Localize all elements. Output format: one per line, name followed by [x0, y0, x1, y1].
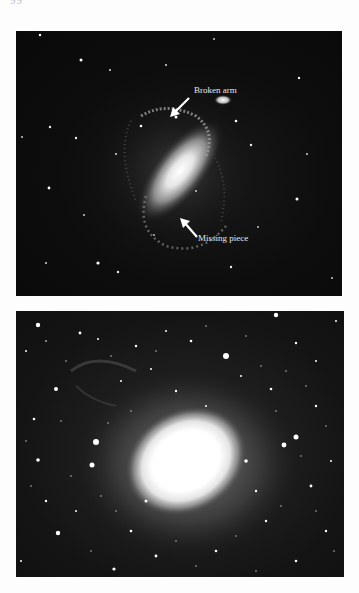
broken-arm-label: Broken arm — [194, 85, 237, 95]
elliptical-galaxy-photo — [16, 311, 344, 577]
page-mark: 99 — [10, 0, 23, 6]
broken-arm-arrow-icon — [169, 96, 191, 118]
barred-spiral-galaxy-photo: Broken arm Missing piece — [16, 31, 342, 296]
spiral-galaxy-graphic — [16, 31, 342, 296]
missing-piece-arrow-icon — [179, 217, 199, 239]
missing-piece-label: Missing piece — [198, 233, 248, 243]
bright-galaxy-graphic — [16, 311, 344, 577]
